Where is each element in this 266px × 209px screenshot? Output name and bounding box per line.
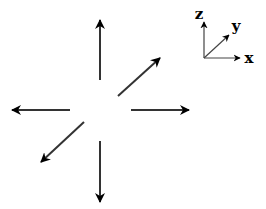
axis-label-z: z: [195, 5, 204, 23]
arrow-diagram: zyx: [0, 0, 266, 209]
arrow-neg-y: [41, 122, 84, 162]
axis-label-y: y: [231, 17, 242, 35]
arrow-posneg-y: [118, 58, 160, 96]
axis-label-x: x: [245, 49, 255, 67]
axes-indicator: zyx: [195, 5, 255, 67]
axis-y: [204, 35, 229, 58]
radiating-arrows: [12, 20, 189, 202]
